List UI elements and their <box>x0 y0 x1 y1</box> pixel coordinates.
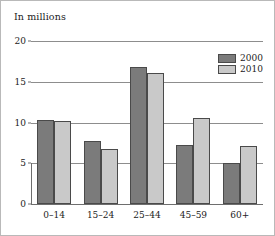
bar-group <box>84 41 118 204</box>
bar <box>130 67 147 204</box>
bar <box>176 145 193 204</box>
legend-item[interactable]: 2000 <box>218 54 263 63</box>
bar-group <box>176 41 210 204</box>
legend-swatch-icon <box>218 54 236 63</box>
bar <box>193 118 210 204</box>
bar <box>84 141 101 204</box>
legend-label: 2010 <box>240 65 263 74</box>
bar-group <box>37 41 71 204</box>
legend-label: 2000 <box>240 54 263 63</box>
bar-chart-figure: In millions 05101520 0–1415–2425–4445–59… <box>0 0 275 236</box>
x-axis-label: 0–14 <box>43 210 65 220</box>
legend-swatch-icon <box>218 65 236 74</box>
x-axis-label: 60+ <box>230 210 249 220</box>
y-tick-label: 15 <box>15 77 26 87</box>
y-tick-label: 0 <box>20 199 26 209</box>
bar <box>147 73 164 204</box>
bar <box>240 146 257 204</box>
legend-item[interactable]: 2010 <box>218 65 263 74</box>
legend: 20002010 <box>218 54 263 74</box>
x-axis-label: 15–24 <box>87 210 114 220</box>
y-tick-label: 5 <box>20 158 26 168</box>
x-axis-label: 45–59 <box>180 210 207 220</box>
bar <box>101 149 118 204</box>
y-tick-label: 10 <box>15 118 26 128</box>
bar-group <box>130 41 164 204</box>
bar <box>37 120 54 204</box>
bar <box>54 121 71 204</box>
y-tick-label: 20 <box>15 36 26 46</box>
bar <box>223 163 240 204</box>
chart-title: In millions <box>14 11 66 22</box>
x-axis-line <box>31 204 263 205</box>
x-axis-label: 25–44 <box>133 210 160 220</box>
